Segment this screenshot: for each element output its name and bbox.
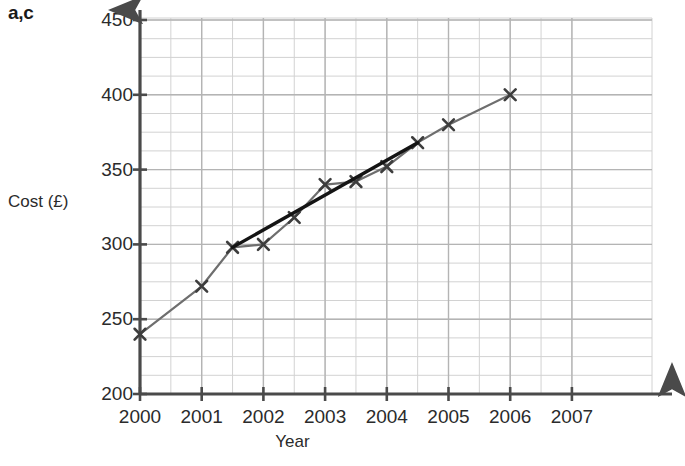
chart-figure: a,c Cost (£) Year 2002503003504004502000… bbox=[0, 0, 685, 466]
axis-lines bbox=[140, 10, 672, 394]
grid-minor bbox=[140, 18, 652, 394]
axis-ticks bbox=[133, 20, 572, 401]
plot-area bbox=[0, 0, 685, 466]
